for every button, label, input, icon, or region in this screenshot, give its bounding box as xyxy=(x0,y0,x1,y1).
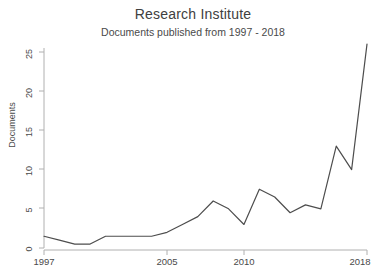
chart-figure: Research Institute Documents published f… xyxy=(0,0,386,279)
chart-canvas xyxy=(0,0,386,279)
x-axis xyxy=(44,250,367,255)
data-line-documents xyxy=(44,44,367,244)
y-axis xyxy=(39,48,44,248)
